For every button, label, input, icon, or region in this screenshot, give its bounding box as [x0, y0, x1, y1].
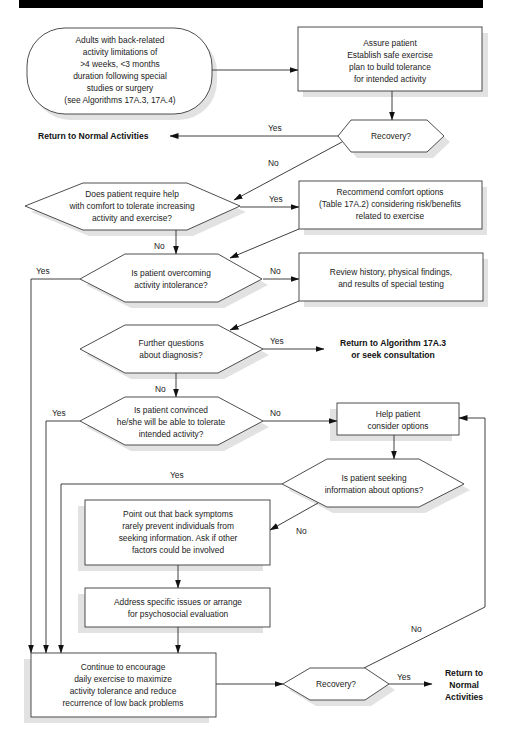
svg-text:Continue to encourage: Continue to encourage	[81, 662, 166, 672]
svg-text:Address specific issues or arr: Address specific issues or arrange	[114, 597, 242, 607]
svg-text:(see Algorithms 17A.3, 17A.4): (see Algorithms 17A.3, 17A.4)	[64, 95, 175, 105]
svg-text:and results of special testing: and results of special testing	[338, 279, 444, 289]
svg-text:for intended activity: for intended activity	[354, 74, 427, 84]
svg-text:Establish safe exercise: Establish safe exercise	[347, 50, 433, 60]
svg-text:studies or surgery: studies or surgery	[87, 83, 154, 93]
svg-text:Assure patient: Assure patient	[363, 38, 417, 48]
svg-text:duration following special: duration following special	[73, 71, 167, 81]
svg-text:No: No	[270, 266, 281, 276]
svg-text:Yes: Yes	[170, 470, 184, 480]
review-box	[299, 253, 483, 301]
svg-text:he/she will be able to tolerat: he/she will be able to tolerate	[117, 417, 226, 427]
svg-text:No: No	[270, 408, 281, 418]
svg-text:Return to: Return to	[445, 668, 483, 678]
svg-text:Yes: Yes	[270, 336, 284, 346]
recovery-2-text: Recovery?	[316, 679, 356, 689]
svg-text:Return to Algorithm 17A.3: Return to Algorithm 17A.3	[340, 338, 446, 348]
svg-text:activity and exercise?: activity and exercise?	[92, 213, 172, 223]
svg-text:rarely prevent individuals fro: rarely prevent individuals from	[122, 521, 234, 531]
svg-text:related to exercise: related to exercise	[356, 211, 425, 221]
svg-text:consider options: consider options	[368, 421, 429, 431]
return-normal-2: Return to Normal Activities	[445, 668, 483, 702]
svg-text:with comfort to tolerate incre: with comfort to tolerate increasing	[68, 201, 195, 211]
svg-text:No: No	[268, 158, 279, 168]
svg-text:>4 weeks, <3 months: >4 weeks, <3 months	[80, 59, 160, 69]
svg-text:daily exercise to maximize: daily exercise to maximize	[74, 674, 172, 684]
svg-text:or seek consultation: or seek consultation	[351, 350, 435, 360]
svg-text:recurrence of low back problem: recurrence of low back problems	[62, 698, 183, 708]
svg-text:No: No	[155, 384, 166, 394]
flowchart: Adults with back-related activity limita…	[0, 0, 508, 745]
return-normal-1: Return to Normal Activities	[38, 131, 149, 141]
address-box	[85, 588, 270, 627]
return-algo-text: Return to Algorithm 17A.3 or seek consul…	[340, 338, 446, 360]
svg-text:(Table 17A.2) considering risk: (Table 17A.2) considering risk/benefits	[319, 199, 461, 209]
svg-text:Adults with back-related: Adults with back-related	[76, 35, 165, 45]
svg-text:Help patient: Help patient	[376, 409, 421, 419]
svg-text:Yes: Yes	[36, 266, 50, 276]
svg-text:activity limitations of: activity limitations of	[83, 47, 158, 57]
svg-text:Activities: Activities	[445, 692, 483, 702]
svg-text:activity tolerance and reduce: activity tolerance and reduce	[70, 686, 177, 696]
svg-text:Normal: Normal	[449, 680, 479, 690]
svg-text:plan to build tolerance: plan to build tolerance	[349, 62, 431, 72]
svg-text:Yes: Yes	[397, 672, 411, 682]
svg-text:seeking information. Ask if ot: seeking information. Ask if other	[119, 533, 238, 543]
svg-text:No: No	[411, 624, 422, 634]
svg-text:Is patient convinced: Is patient convinced	[134, 405, 208, 415]
svg-text:Yes: Yes	[269, 194, 283, 204]
svg-text:Review history, physical findi: Review history, physical findings,	[330, 267, 452, 277]
svg-text:Does patient require help: Does patient require help	[85, 189, 179, 199]
svg-text:activity intolerance?: activity intolerance?	[134, 280, 208, 290]
svg-text:Is patient overcoming: Is patient overcoming	[131, 268, 211, 278]
svg-text:Yes: Yes	[52, 408, 66, 418]
svg-text:Point out that back symptoms: Point out that back symptoms	[123, 509, 233, 519]
svg-text:factors could be involved: factors could be involved	[132, 545, 225, 555]
svg-text:about diagnosis?: about diagnosis?	[139, 350, 203, 360]
svg-text:information about options?: information about options?	[325, 485, 424, 495]
svg-text:Yes: Yes	[268, 123, 282, 133]
svg-text:for psychosocial evaluation: for psychosocial evaluation	[128, 609, 229, 619]
svg-text:No: No	[154, 241, 165, 251]
recovery-1-text: Recovery?	[371, 131, 411, 141]
svg-text:Further questions: Further questions	[138, 338, 203, 348]
svg-text:Recommend comfort options: Recommend comfort options	[336, 187, 443, 197]
svg-text:intended activity?: intended activity?	[139, 429, 204, 439]
svg-text:Is patient seeking: Is patient seeking	[341, 473, 407, 483]
svg-text:No: No	[296, 526, 307, 536]
